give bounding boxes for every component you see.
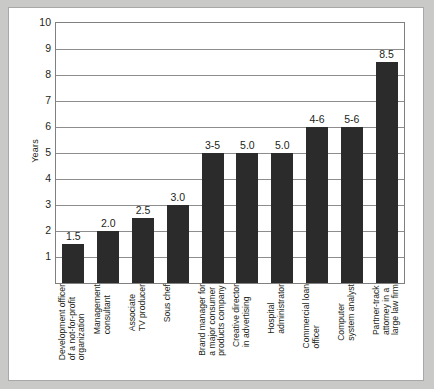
bar-value-label: 2.5	[136, 205, 151, 216]
bar-slot: 2.0	[91, 23, 126, 283]
x-axis-category-label: Management consultant	[93, 284, 112, 334]
bar-value-label: 5.0	[240, 140, 255, 151]
bar[interactable]	[97, 231, 119, 283]
x-axis-category-label: Hospital administrator	[267, 284, 286, 334]
y-axis-tick-7: 7	[23, 95, 51, 106]
x-axis-category-label: Brand manager for a major consumer produ…	[198, 284, 227, 356]
bar-value-label: 5.0	[275, 140, 290, 151]
bar-value-label: 3.0	[170, 192, 185, 203]
bar-slot: 1.5	[56, 23, 91, 283]
x-axis-category-label: Partner-track attorney in a large law fi…	[372, 284, 401, 335]
bar-series: 1.52.02.53.03-55.05.04-65-68.5	[56, 23, 404, 283]
bar-slot: 8.5	[369, 23, 404, 283]
x-axis-category-label: Sous chef	[163, 284, 173, 322]
x-label-slot: Commercial loan officer	[299, 284, 334, 382]
bar[interactable]	[236, 153, 258, 283]
y-axis-tick-4: 4	[23, 173, 51, 184]
bar[interactable]	[167, 205, 189, 283]
bar-slot: 5.0	[230, 23, 265, 283]
x-axis-category-labels: Development officer of a not-for-profit …	[55, 284, 403, 382]
y-axis-tick-1: 1	[23, 251, 51, 262]
x-label-slot: Development officer of a not-for-profit …	[55, 284, 90, 382]
bar-value-label: 5-6	[344, 114, 359, 125]
bar[interactable]	[306, 127, 328, 283]
y-axis-tick-10: 10	[23, 17, 51, 28]
x-label-slot: Computer system analyst	[333, 284, 368, 382]
x-label-slot: Creative director in advertising	[229, 284, 264, 382]
bar-value-label: 8.5	[379, 49, 394, 60]
x-label-slot: Sous chef	[159, 284, 194, 382]
bar[interactable]	[376, 62, 398, 283]
y-axis-tick-2: 2	[23, 225, 51, 236]
y-axis-tick-5: 5	[23, 147, 51, 158]
x-axis-category-label: Associate TV producer	[128, 284, 147, 331]
x-label-slot: Partner-track attorney in a large law fi…	[368, 284, 403, 382]
bar[interactable]	[62, 244, 84, 283]
bar[interactable]	[271, 153, 293, 283]
bar-slot: 5.0	[265, 23, 300, 283]
x-label-slot: Management consultant	[90, 284, 125, 382]
bar-value-label: 4-6	[309, 114, 324, 125]
bar-slot: 3-5	[195, 23, 230, 283]
x-label-slot: Associate TV producer	[125, 284, 160, 382]
chart-figure: Years 10987654321 1.52.02.53.03-55.05.04…	[8, 7, 424, 381]
y-axis-tick-3: 3	[23, 199, 51, 210]
y-axis-tick-labels: 10987654321	[23, 8, 51, 382]
x-axis-category-label: Development officer of a not-for-profit …	[58, 284, 87, 360]
x-axis-category-label: Creative director in advertising	[232, 284, 251, 347]
bar[interactable]	[202, 153, 224, 283]
y-axis-tick-6: 6	[23, 121, 51, 132]
bar[interactable]	[132, 218, 154, 283]
y-axis-tick-8: 8	[23, 69, 51, 80]
bar-slot: 4-6	[300, 23, 335, 283]
bar[interactable]	[341, 127, 363, 283]
y-axis-tick-9: 9	[23, 43, 51, 54]
x-label-slot: Hospital administrator	[264, 284, 299, 382]
bar-value-label: 2.0	[101, 218, 116, 229]
bar-value-label: 3-5	[205, 140, 220, 151]
x-axis-category-label: Computer system analyst	[337, 284, 356, 341]
bar-value-label: 1.5	[66, 231, 81, 242]
bar-slot: 5-6	[334, 23, 369, 283]
plot-area: 1.52.02.53.03-55.05.04-65-68.5	[55, 22, 405, 284]
bar-slot: 2.5	[126, 23, 161, 283]
bar-slot: 3.0	[160, 23, 195, 283]
x-label-slot: Brand manager for a major consumer produ…	[194, 284, 229, 382]
x-axis-category-label: Commercial loan officer	[302, 284, 321, 348]
